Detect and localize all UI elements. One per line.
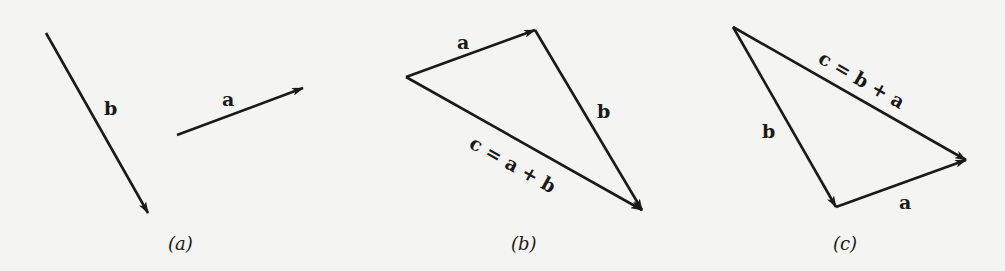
vector-b-label: b: [104, 97, 117, 119]
vector-b-label: b: [762, 120, 775, 142]
vector-addition-figure: b a (a) a b c = a + b (b) b a c = b + a …: [0, 0, 1005, 271]
vector-b-label: b: [597, 100, 610, 122]
vector-a-arrow: [177, 88, 303, 135]
vector-c-label: c = b + a: [815, 46, 909, 112]
vector-c-label: c = a + b: [466, 131, 560, 197]
panel-b-caption: (b): [511, 233, 537, 254]
panel-b: a b c = a + b (b): [406, 30, 642, 254]
vector-b-arrow: [46, 33, 148, 213]
panel-a: b a (a): [46, 33, 303, 254]
vector-c-arrow: [406, 77, 642, 210]
vector-a-label: a: [457, 31, 469, 53]
vector-a-label: a: [899, 191, 911, 213]
vector-a-label: a: [222, 88, 234, 110]
panel-c-caption: (c): [833, 233, 857, 254]
vector-a-arrow: [406, 30, 535, 77]
panel-c: b a c = b + a (c): [733, 27, 966, 254]
panel-a-caption: (a): [168, 233, 193, 254]
